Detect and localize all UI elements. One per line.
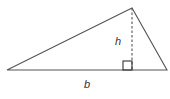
triangle-diagram: h b (0, 0, 170, 99)
base-label: b (84, 78, 90, 90)
height-label: h (115, 35, 121, 47)
right-angle-marker (123, 61, 132, 70)
triangle (7, 8, 167, 70)
